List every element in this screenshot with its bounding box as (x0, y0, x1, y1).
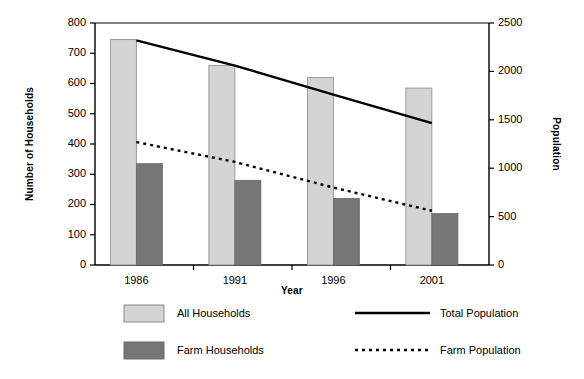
bar-farm-households (136, 164, 162, 265)
right-tick-label: 1500 (498, 113, 522, 125)
bar-all-households (110, 40, 136, 265)
bar-farm-households (333, 198, 359, 265)
right-tick-label: 2500 (498, 16, 522, 28)
left-tick-label: 0 (80, 258, 86, 270)
bar-all-households (209, 65, 235, 265)
bar-all-households (406, 88, 432, 265)
left-tick-label: 700 (68, 46, 86, 58)
legend-label-all-households: All Households (177, 307, 251, 319)
right-tick-label: 2000 (498, 64, 522, 76)
chart-background (0, 0, 584, 379)
left-tick-label: 400 (68, 137, 86, 149)
y2-axis-title: Population (551, 117, 562, 171)
left-tick-label: 300 (68, 167, 86, 179)
left-tick-label: 200 (68, 197, 86, 209)
x-category-label: 1986 (124, 274, 148, 286)
y-axis-title: Number of Households (24, 87, 35, 201)
bar-all-households (307, 77, 333, 265)
legend-label-farm-population: Farm Population (440, 344, 521, 356)
bar-farm-households (432, 214, 458, 265)
bar-farm-households (235, 180, 261, 265)
left-tick-label: 600 (68, 76, 86, 88)
x-axis-title: Year (281, 285, 303, 296)
x-category-label: 1996 (321, 274, 345, 286)
x-category-label: 2001 (420, 274, 444, 286)
right-tick-label: 0 (498, 258, 504, 270)
legend-swatch-all-households (124, 305, 164, 322)
dual-axis-bar-line-chart: 0100200300400500600700800 05001000150020… (0, 0, 584, 379)
left-tick-label: 100 (68, 228, 86, 240)
chart-container: 0100200300400500600700800 05001000150020… (0, 0, 584, 379)
right-tick-label: 1000 (498, 161, 522, 173)
right-tick-label: 500 (498, 210, 516, 222)
left-tick-label: 500 (68, 107, 86, 119)
legend-swatch-farm-households (124, 342, 164, 359)
legend-label-farm-households: Farm Households (177, 344, 264, 356)
x-category-label: 1991 (223, 274, 247, 286)
legend-label-total-population: Total Population (440, 307, 518, 319)
left-tick-label: 800 (68, 16, 86, 28)
